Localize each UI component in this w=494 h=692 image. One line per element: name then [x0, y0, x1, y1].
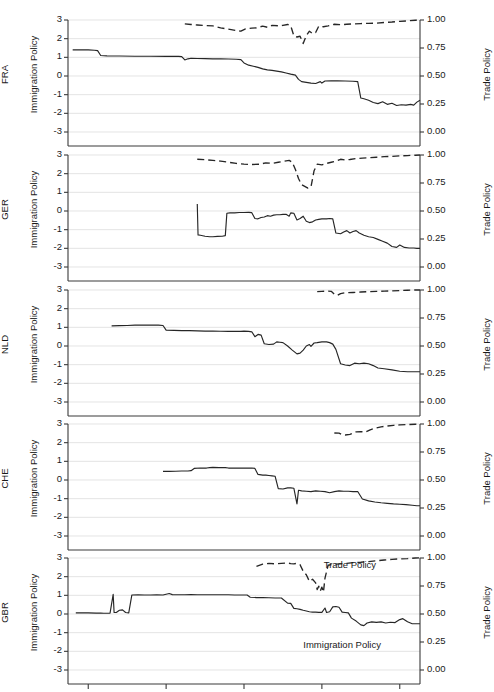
y-right-axis-title: Trade Policy	[481, 285, 492, 405]
y-left-axis-title: Immigration Policy	[28, 150, 39, 270]
series-immigration-policy	[163, 467, 420, 505]
y-right-tick-label: 1.00	[427, 148, 461, 159]
panel-che	[64, 424, 424, 550]
y-right-tick-label: 0.50	[427, 204, 461, 215]
y-right-tick-label: 0.00	[427, 125, 461, 136]
y-left-tick-label: -3	[36, 125, 62, 136]
panel-label-nld: NLD	[0, 285, 10, 405]
panel-nld	[64, 290, 424, 416]
y-right-tick-label: 0.75	[427, 41, 461, 52]
y-left-tick-label: 3	[36, 283, 62, 294]
y-right-tick-label: 0.00	[427, 663, 461, 674]
panel-label-gbr: GBR	[0, 553, 10, 673]
y-left-tick-label: 1	[36, 50, 62, 61]
annotation-trade-policy: Trade Policy	[324, 559, 376, 570]
y-left-tick-label: -3	[36, 395, 62, 406]
y-left-tick-label: 2	[36, 436, 62, 447]
y-right-axis-title: Trade Policy	[481, 553, 492, 673]
y-right-tick-label: 0.75	[427, 579, 461, 590]
series-immigration-policy	[197, 204, 420, 248]
panel-ger	[64, 155, 424, 281]
series-immigration-policy	[73, 50, 420, 106]
panel-gbr	[64, 558, 424, 684]
y-right-tick-label: 1.00	[427, 551, 461, 562]
y-left-tick-label: -1	[36, 88, 62, 99]
y-left-axis-title: Immigration Policy	[28, 285, 39, 405]
y-left-tick-label: -2	[36, 241, 62, 252]
y-left-tick-label: -1	[36, 223, 62, 234]
y-right-axis-title: Trade Policy	[481, 419, 492, 539]
y-left-tick-label: 3	[36, 551, 62, 562]
y-left-axis-title: Immigration Policy	[28, 419, 39, 539]
y-right-axis-title: Trade Policy	[481, 150, 492, 270]
annotation-immigration-policy: Immigration Policy	[303, 639, 381, 650]
y-left-tick-label: -2	[36, 510, 62, 521]
y-right-tick-label: 0.00	[427, 260, 461, 271]
y-right-axis-title: Trade Policy	[481, 15, 492, 135]
panel-label-ger: GER	[0, 150, 10, 270]
y-right-tick-label: 0.25	[427, 97, 461, 108]
y-left-tick-label: 1	[36, 185, 62, 196]
y-left-tick-label: 2	[36, 32, 62, 43]
y-left-tick-label: -1	[36, 358, 62, 369]
y-left-tick-label: 3	[36, 417, 62, 428]
y-left-tick-label: 0	[36, 607, 62, 618]
y-right-tick-label: 0.25	[427, 367, 461, 378]
y-left-tick-label: -2	[36, 376, 62, 387]
y-left-tick-label: 1	[36, 588, 62, 599]
y-left-tick-label: -2	[36, 106, 62, 117]
y-right-tick-label: 1.00	[427, 13, 461, 24]
y-left-axis-title: Immigration Policy	[28, 553, 39, 673]
y-left-tick-label: 0	[36, 204, 62, 215]
y-left-tick-label: -1	[36, 492, 62, 503]
y-right-tick-label: 1.00	[427, 283, 461, 294]
y-right-tick-label: 0.75	[427, 176, 461, 187]
y-right-tick-label: 0.25	[427, 635, 461, 646]
y-right-tick-label: 0.00	[427, 395, 461, 406]
y-left-axis-title: Immigration Policy	[28, 15, 39, 135]
y-right-tick-label: 0.25	[427, 232, 461, 243]
y-left-tick-label: 2	[36, 570, 62, 581]
y-left-tick-label: -3	[36, 260, 62, 271]
multi-panel-line-chart: 3210-1-2-31.000.750.500.250.00Immigratio…	[0, 0, 494, 692]
y-right-tick-label: 0.75	[427, 311, 461, 322]
y-left-tick-label: 1	[36, 320, 62, 331]
series-trade-policy	[197, 155, 420, 188]
panel-label-fra: FRA	[0, 15, 10, 135]
y-left-tick-label: 2	[36, 302, 62, 313]
series-trade-policy	[334, 424, 420, 435]
y-left-tick-label: -3	[36, 529, 62, 540]
y-left-tick-label: 3	[36, 148, 62, 159]
chart-canvas	[0, 0, 494, 692]
y-left-tick-label: -1	[36, 626, 62, 637]
y-left-tick-label: 0	[36, 473, 62, 484]
panel-fra	[64, 20, 424, 146]
y-left-tick-label: -2	[36, 644, 62, 655]
y-left-tick-label: 0	[36, 339, 62, 350]
series-trade-policy	[317, 290, 420, 295]
y-left-tick-label: 1	[36, 454, 62, 465]
y-right-tick-label: 0.50	[427, 473, 461, 484]
y-right-tick-label: 0.75	[427, 445, 461, 456]
series-immigration-policy	[76, 593, 420, 625]
y-left-tick-label: 2	[36, 167, 62, 178]
y-left-tick-label: 3	[36, 13, 62, 24]
y-left-tick-label: 0	[36, 69, 62, 80]
y-right-tick-label: 0.50	[427, 607, 461, 618]
panel-label-che: CHE	[0, 419, 10, 539]
series-trade-policy	[185, 20, 420, 44]
y-left-tick-label: -3	[36, 663, 62, 674]
y-right-tick-label: 0.00	[427, 529, 461, 540]
y-right-tick-label: 0.50	[427, 339, 461, 350]
y-right-tick-label: 0.50	[427, 69, 461, 80]
y-right-tick-label: 1.00	[427, 417, 461, 428]
y-right-tick-label: 0.25	[427, 501, 461, 512]
